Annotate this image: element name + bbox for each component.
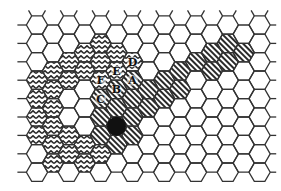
- hex-cell: [249, 145, 270, 163]
- hex-cell: [249, 71, 270, 89]
- cell-label-e: E: [112, 65, 120, 78]
- cell-label-a: A: [127, 74, 137, 87]
- cell-label-b: B: [112, 83, 121, 96]
- hex-cell: [249, 126, 270, 144]
- agent-dot-icon: [107, 117, 126, 136]
- hex-cell: [249, 16, 270, 34]
- cell-label-c: C: [96, 93, 105, 106]
- hex-cell: [249, 89, 270, 107]
- hex-cell: [249, 34, 270, 52]
- hex-cell: [249, 53, 270, 71]
- hex-grid-canvas: DEFABC: [0, 0, 281, 191]
- hex-cell: [249, 108, 270, 126]
- hex-cell: [249, 163, 270, 181]
- cell-label-f: F: [97, 74, 105, 87]
- agent-layer: [107, 117, 126, 136]
- hex-grid-diagram: DEFABC: [0, 0, 281, 191]
- cell-label-d: D: [128, 56, 138, 69]
